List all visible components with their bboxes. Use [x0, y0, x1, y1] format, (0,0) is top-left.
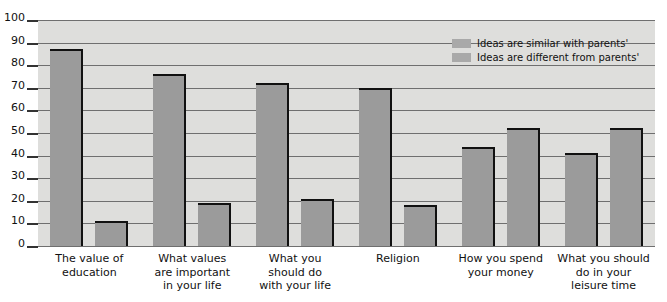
y-axis-tick-label: 30: [11, 170, 25, 181]
y-axis-tick-mark: [27, 20, 38, 22]
category-label-line: What you: [244, 252, 347, 266]
category-label-line: in your life: [141, 279, 244, 293]
y-axis-tick-mark: [27, 65, 38, 67]
bar: [50, 49, 83, 246]
y-axis-tick-mark: [27, 133, 38, 135]
category-axis-labels: The value ofeducationWhat valuesare impo…: [38, 252, 655, 302]
y-axis-tick-mark: [27, 223, 38, 225]
category-label-line: How you spend: [449, 252, 552, 266]
category-label: The value ofeducation: [38, 252, 141, 279]
category-label-line: are important: [141, 266, 244, 280]
bar: [565, 153, 598, 246]
category-label-line: should do: [244, 266, 347, 280]
category-label: What youshould dowith your life: [244, 252, 347, 293]
y-axis-tick-label: 0: [18, 238, 25, 249]
bar: [404, 205, 437, 246]
bar: [153, 74, 186, 246]
y-axis-tick-mark: [27, 110, 38, 112]
category-label: Religion: [347, 252, 450, 266]
y-axis-tick-label: 80: [11, 57, 25, 68]
y-axis-tick-label: 40: [11, 148, 25, 159]
y-axis-tick-mark: [27, 201, 38, 203]
bar: [462, 147, 495, 246]
category-label-line: education: [38, 266, 141, 280]
y-axis-tick-label: 70: [11, 80, 25, 91]
y-axis-tick-mark: [27, 43, 38, 45]
category-label-line: What you should: [552, 252, 655, 266]
category-label-line: What values: [141, 252, 244, 266]
y-axis-tick-mark: [27, 156, 38, 158]
legend-swatch-icon: [452, 39, 471, 48]
bar: [507, 128, 540, 246]
legend-item[interactable]: Ideas are similar with parents': [452, 38, 639, 49]
y-axis-tick-label: 50: [11, 125, 25, 136]
bar-chart: 0102030405060708090100 Ideas are similar…: [0, 0, 667, 302]
legend-swatch-icon: [452, 53, 471, 62]
bar: [610, 128, 643, 246]
y-axis-tick-label: 20: [11, 193, 25, 204]
category-label-line: your money: [449, 266, 552, 280]
bar: [256, 83, 289, 246]
bar: [198, 203, 231, 246]
category-label: What valuesare importantin your life: [141, 252, 244, 293]
y-axis-tick-label: 10: [11, 215, 25, 226]
category-label-line: The value of: [38, 252, 141, 266]
category-label: What you shoulddo in yourleisure time: [552, 252, 655, 293]
category-label: How you spendyour money: [449, 252, 552, 279]
legend-item[interactable]: Ideas are different from parents': [452, 52, 639, 63]
bar: [95, 221, 128, 246]
category-label-line: with your life: [244, 279, 347, 293]
category-label-line: do in your: [552, 266, 655, 280]
gridline: [38, 246, 655, 247]
y-axis-tick-label: 60: [11, 102, 25, 113]
y-axis-tick-mark: [27, 178, 38, 180]
legend: Ideas are similar with parents'Ideas are…: [452, 38, 639, 63]
y-axis-tick-mark: [27, 246, 38, 248]
category-label-line: leisure time: [552, 279, 655, 293]
legend-item-label: Ideas are different from parents': [477, 52, 639, 63]
bar: [359, 88, 392, 246]
category-label-line: Religion: [347, 252, 450, 266]
y-axis-tick-label: 90: [11, 35, 25, 46]
legend-item-label: Ideas are similar with parents': [477, 38, 628, 49]
bar: [301, 199, 334, 246]
y-axis-tick-label: 100: [4, 12, 25, 23]
y-axis-tick-mark: [27, 88, 38, 90]
